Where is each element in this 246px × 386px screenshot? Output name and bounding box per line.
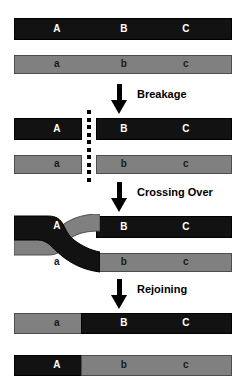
gene-label-C-crossing: C [182, 222, 189, 232]
step-label-rejoining: Rejoining [137, 284, 187, 295]
chromatid-black-left-fragment [14, 118, 82, 140]
break-point-dotted-line [87, 110, 91, 182]
gene-label-B-breakage: B [120, 124, 127, 134]
gene-label-C-breakage: C [182, 124, 189, 134]
gene-label-b-recombinant: b [121, 360, 127, 370]
gene-label-B-initial: B [120, 24, 127, 34]
recombinant-bottom-gray-segment [81, 355, 232, 376]
gene-label-A-crossing: A [53, 221, 60, 231]
step-arrow-rejoining [109, 279, 131, 309]
gene-label-a-crossing: a [54, 257, 60, 267]
gene-label-c-recombinant: c [183, 360, 189, 370]
gene-label-C-initial: C [182, 24, 189, 34]
chromatid-gray-left-fragment [14, 155, 82, 174]
gene-label-B-crossing: B [120, 222, 127, 232]
recombinant-top-black-segment [81, 313, 232, 334]
recombinant-top-gray-segment [14, 313, 82, 334]
gene-label-A-initial: A [53, 24, 60, 34]
gene-label-b-crossing: b [121, 257, 127, 267]
step-arrow-crossing-over [109, 182, 131, 212]
gene-label-A-recombinant: A [53, 360, 60, 370]
gene-label-c-breakage: c [183, 159, 189, 169]
crossing-over-diagram: A B C a b c Breakage A B C a b c Crossin… [0, 0, 246, 386]
chromatid-gray-right-fragment [96, 155, 232, 174]
gene-label-c-crossing: c [183, 257, 189, 267]
chromatid-black-right-crossing [96, 216, 232, 238]
chromatid-gray-right-crossing [96, 253, 232, 272]
arrow-head-icon [111, 100, 127, 114]
step-arrow-breakage [109, 84, 131, 114]
gene-label-a-recombinant: a [54, 318, 60, 328]
gene-label-A-breakage: A [53, 124, 60, 134]
step-label-crossing-over: Crossing Over [137, 187, 213, 198]
chromatid-black-right-fragment [96, 118, 232, 140]
arrow-head-icon [111, 198, 127, 212]
recombinant-bottom-black-segment [14, 355, 82, 376]
step-label-breakage: Breakage [137, 89, 187, 100]
gene-label-C-recombinant: C [182, 318, 189, 328]
arrow-head-icon [111, 295, 127, 309]
gene-label-B-recombinant: B [120, 318, 127, 328]
gene-label-a-initial: a [54, 59, 60, 69]
gene-label-a-breakage: a [54, 159, 60, 169]
gene-label-c-initial: c [183, 59, 189, 69]
gene-label-b-initial: b [121, 59, 127, 69]
gene-label-b-breakage: b [121, 159, 127, 169]
